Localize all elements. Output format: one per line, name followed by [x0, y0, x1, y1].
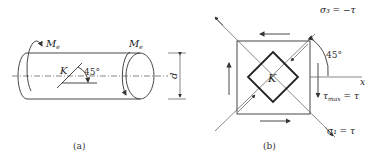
point-k-label-b: K	[267, 72, 277, 85]
point-k-label-a: K	[59, 65, 68, 76]
sigma3-arrow-in-2	[238, 95, 255, 112]
angle-label-a: 45°	[84, 67, 100, 77]
figure-b-element	[215, 17, 362, 137]
caption-b: (b)	[263, 141, 276, 151]
tau-max-label: τmax = τ	[323, 91, 360, 102]
sigma3-label: σ₃ = −τ	[320, 5, 357, 15]
diameter-label: d	[168, 73, 179, 79]
angle-label-b: 45°	[326, 50, 342, 60]
moment-left-arrow	[27, 41, 42, 91]
sigma3-arrow-in	[291, 44, 308, 61]
moment-left-label: Me	[45, 38, 60, 50]
x-axis-label: x	[360, 77, 365, 87]
sigma1-arrow-out-2	[215, 17, 223, 25]
sigma1-label: σ₁ = τ	[327, 126, 356, 136]
diagonal-sigma3	[215, 34, 315, 131]
moment-right-label: Me	[128, 38, 143, 50]
diagram-canvas: Me Me K 45° d (a) K 45° x σ₃ = −τ σ₁ = τ…	[0, 0, 379, 162]
caption-a: (a)	[73, 141, 85, 151]
